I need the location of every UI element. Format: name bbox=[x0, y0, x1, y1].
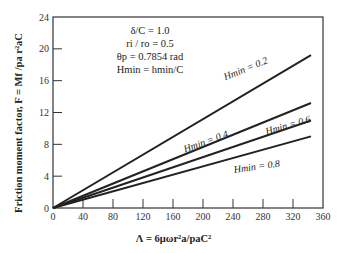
param-theta: θp = 0.7854 rad bbox=[100, 50, 200, 63]
x-tick-label: 40 bbox=[78, 211, 88, 222]
y-tick-label: 8 bbox=[44, 139, 49, 150]
y-tick-label: 16 bbox=[39, 75, 49, 86]
x-tick-label: 200 bbox=[196, 211, 211, 222]
x-axis-label: Λ = 6μωr²a/paC² bbox=[0, 233, 347, 244]
y-tick-label: 24 bbox=[39, 12, 49, 23]
y-axis-label: Friction moment factor, F = Mf /pa r²aC bbox=[13, 23, 27, 223]
parameter-annotations: δ/C = 1.0 ri / ro = 0.5 θp = 0.7854 rad … bbox=[100, 24, 200, 76]
x-tick-label: 320 bbox=[286, 211, 301, 222]
y-tick-label: 0 bbox=[44, 203, 49, 214]
param-radius-ratio: ri / ro = 0.5 bbox=[100, 37, 200, 50]
x-tick-label: 240 bbox=[226, 211, 241, 222]
y-tick-label: 20 bbox=[39, 43, 49, 54]
x-tick-label: 120 bbox=[136, 211, 151, 222]
x-tick-label: 160 bbox=[166, 211, 181, 222]
series-line bbox=[53, 103, 311, 208]
y-tick-label: 12 bbox=[39, 107, 49, 118]
y-tick-label: 4 bbox=[44, 171, 49, 182]
x-tick-label: 280 bbox=[256, 211, 271, 222]
x-tick-label: 0 bbox=[51, 211, 56, 222]
x-tick-label: 80 bbox=[108, 211, 118, 222]
series-line bbox=[53, 136, 311, 208]
param-delta: δ/C = 1.0 bbox=[100, 24, 200, 37]
x-tick-label: 360 bbox=[316, 211, 331, 222]
param-hmin-def: Hmin = hmin/C bbox=[100, 63, 200, 76]
